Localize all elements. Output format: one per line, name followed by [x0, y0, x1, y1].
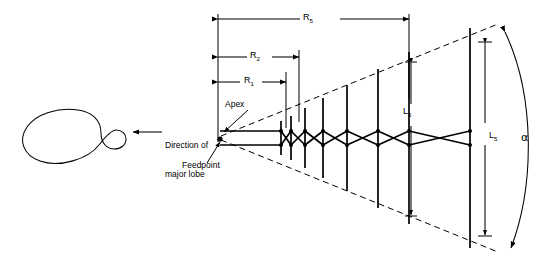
major-lobe-label-line1: Direction of: [165, 141, 208, 151]
major-lobe-label-line2: major lobe: [165, 170, 208, 180]
r2-subscript: 2: [257, 55, 260, 62]
apex-envelope-dashed: [221, 24, 498, 252]
dimension-label-l5: L5: [489, 130, 497, 142]
radiation-pattern: [23, 109, 126, 163]
dimension-label-r5: R5: [303, 12, 313, 24]
diagram-vector-layer: [0, 0, 547, 274]
l6-subscript: 6: [408, 111, 411, 118]
dimension-label-r2: R2: [250, 50, 260, 62]
dimension-label-r1: R1: [244, 75, 254, 87]
crossed-feedline-segments: [281, 131, 470, 145]
twin-feedline: [220, 131, 281, 145]
r1-subscript: 1: [251, 80, 254, 87]
r5-subscript: 5: [310, 17, 313, 24]
dimension-label-l6: L6: [403, 106, 411, 118]
dimension-l6: [405, 62, 417, 216]
apex-leader: [224, 110, 248, 132]
feedpoint-label: Feedpoint: [182, 161, 220, 171]
alpha-angle-label: α: [521, 132, 528, 145]
figure-canvas: Direction of major lobe Apex Feedpoint R…: [0, 0, 547, 274]
l5-subscript: 5: [494, 135, 497, 142]
apex-label: Apex: [225, 100, 244, 110]
feedpoint-dot: [217, 136, 222, 141]
